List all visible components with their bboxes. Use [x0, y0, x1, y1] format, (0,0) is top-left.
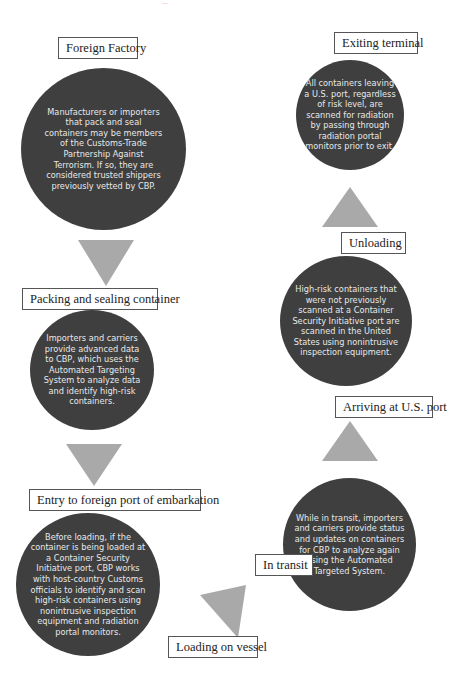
step-circle-foreign-factory: Manufacturers or importers that pack and… — [21, 68, 186, 230]
arrow-up-icon — [322, 187, 378, 227]
step-label-exiting-terminal: Exiting terminal — [334, 32, 418, 54]
step-label-foreign-factory: Foreign Factory — [58, 37, 138, 59]
step-circle-in-transit: While in transit, importers and carriers… — [283, 478, 416, 611]
page-number-fragment: ... — [162, 0, 190, 4]
arrow-diagonal-icon — [198, 585, 250, 640]
step-description-entry-foreign-port: Before loading, if the container is bein… — [28, 532, 148, 638]
step-label-packing-sealing: Packing and sealing container — [22, 288, 158, 310]
step-label-entry-foreign-port: Entry to foreign port of embarkation — [29, 489, 201, 511]
step-description-packing-sealing: Importers and carriers provide advanced … — [42, 333, 142, 407]
arrow-down-icon — [66, 444, 122, 486]
arrow-up-icon — [322, 421, 378, 461]
step-description-exiting-terminal: All containers leaving a U.S. port, rega… — [304, 78, 396, 152]
step-circle-packing-sealing: Importers and carriers provide advanced … — [30, 310, 154, 430]
step-circle-exiting-terminal: All containers leaving a U.S. port, rega… — [296, 60, 404, 170]
arrow-down-icon — [78, 240, 134, 286]
step-description-unloading: High-risk containers that were not previ… — [290, 284, 402, 358]
step-label-in-transit: In transit — [255, 554, 313, 576]
step-label-unloading: Unloading — [341, 232, 406, 254]
step-circle-unloading: High-risk containers that were not previ… — [280, 256, 412, 386]
step-circle-entry-foreign-port: Before loading, if the container is bein… — [16, 513, 160, 656]
step-description-foreign-factory: Manufacturers or importers that pack and… — [43, 107, 164, 192]
step-label-arriving-us-port: Arriving at U.S. port — [335, 396, 433, 418]
step-label-loading-vessel: Loading on vessel — [168, 636, 258, 658]
